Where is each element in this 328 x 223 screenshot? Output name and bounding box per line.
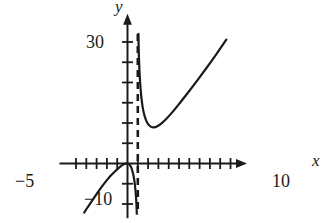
x-axis-label: x xyxy=(312,152,320,169)
x-tick-label-negative-5: −5 xyxy=(15,172,34,190)
x-axis-arrowhead xyxy=(236,159,247,168)
y-tick-label-negative-10: −10 xyxy=(84,190,112,208)
y-axis-arrowhead xyxy=(123,14,132,25)
graph-figure: y x 30 −10 −5 10 xyxy=(0,0,328,223)
curve-right-branch xyxy=(138,34,226,128)
x-tick-label-10: 10 xyxy=(272,172,290,190)
y-axis-label: y xyxy=(115,0,123,15)
y-tick-label-30: 30 xyxy=(86,33,104,51)
